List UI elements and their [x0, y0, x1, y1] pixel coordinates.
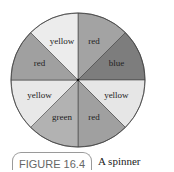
slice-label: red [34, 58, 46, 68]
figure-title: A spinner [98, 155, 140, 167]
figure-caption: FIGURE 16.4 A spinner [12, 151, 141, 171]
slice-label: yellow [27, 90, 52, 100]
slice-label: green [52, 112, 72, 122]
spinner-diagram: redblueyellowredgreenyellowredyellow [0, 0, 174, 150]
figure-label: FIGURE 16.4 [12, 152, 92, 170]
slice-label: red [88, 36, 100, 46]
slice-label: blue [109, 58, 125, 68]
slice-label: red [88, 112, 100, 122]
slice-label: yellow [104, 90, 129, 100]
spinner-pivot [77, 79, 80, 82]
slice-label: yellow [50, 36, 75, 46]
